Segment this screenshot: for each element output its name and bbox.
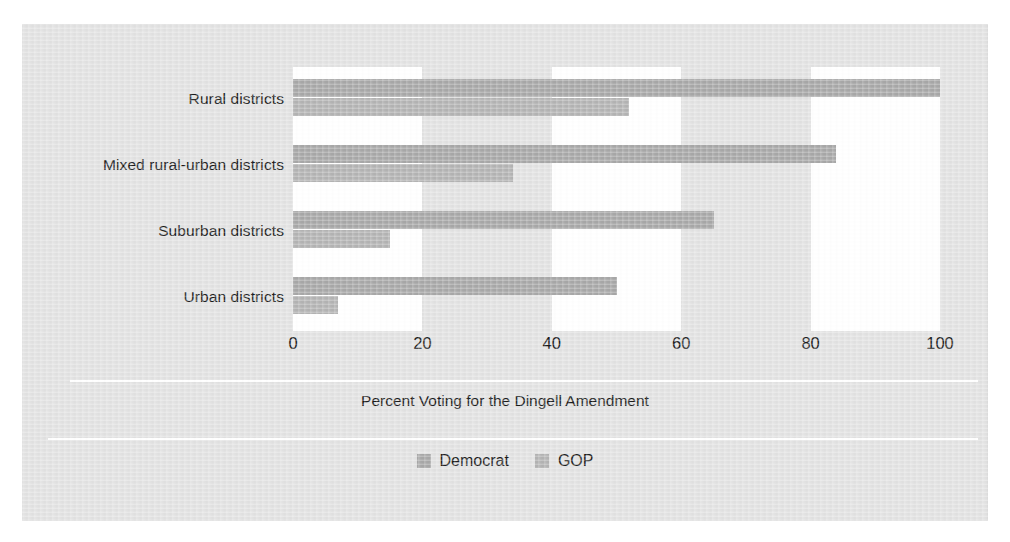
x-axis-label: Percent Voting for the Dingell Amendment (22, 392, 988, 410)
legend-swatch-gop (535, 454, 549, 468)
chart-panel: Rural districts Mixed rural-urban distri… (22, 24, 988, 521)
bar-group (293, 265, 940, 331)
axis-divider-rule (70, 380, 978, 382)
legend-swatch-democrat (417, 454, 431, 468)
bar-democrat-0 (293, 79, 940, 97)
bar-democrat-1 (293, 145, 836, 163)
legend-label-gop: GOP (558, 452, 594, 470)
category-label: Urban districts (52, 288, 284, 306)
bar-gop-1 (293, 164, 513, 182)
legend-label-democrat: Democrat (440, 452, 509, 470)
legend: Democrat GOP (22, 452, 988, 470)
x-tick-label: 0 (288, 334, 297, 353)
x-tick-label: 20 (413, 334, 431, 353)
bar-rows (293, 67, 940, 331)
category-label: Mixed rural-urban districts (52, 156, 284, 174)
category-label: Suburban districts (52, 222, 284, 240)
legend-item-democrat: Democrat (417, 452, 509, 470)
x-tick-label: 80 (801, 334, 819, 353)
x-axis-ticks: 020406080100 (293, 334, 940, 360)
bar-gop-3 (293, 296, 338, 314)
bar-democrat-2 (293, 211, 714, 229)
figure-page: Rural districts Mixed rural-urban distri… (0, 0, 1010, 542)
plot-area (293, 67, 940, 331)
x-tick-label: 40 (543, 334, 561, 353)
category-label: Rural districts (52, 90, 284, 108)
bar-democrat-3 (293, 277, 617, 295)
bar-gop-2 (293, 230, 390, 248)
x-tick-label: 60 (672, 334, 690, 353)
bar-gop-0 (293, 98, 629, 116)
bar-group (293, 67, 940, 133)
legend-divider-rule (48, 438, 978, 440)
category-axis: Rural districts Mixed rural-urban distri… (52, 67, 284, 331)
legend-item-gop: GOP (535, 452, 594, 470)
x-tick-label: 100 (926, 334, 954, 353)
bar-group (293, 133, 940, 199)
bar-group (293, 199, 940, 265)
